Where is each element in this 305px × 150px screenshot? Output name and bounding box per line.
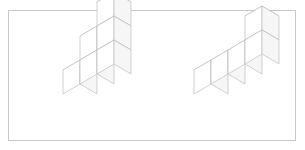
- l-shape-figure: [194, 6, 279, 94]
- isometric-figures-canvas: [0, 0, 305, 150]
- cube-left-face: [63, 60, 80, 94]
- screenshot-stage: [0, 0, 305, 150]
- cube-left-face: [194, 60, 211, 94]
- staircase-figure: [63, 0, 131, 94]
